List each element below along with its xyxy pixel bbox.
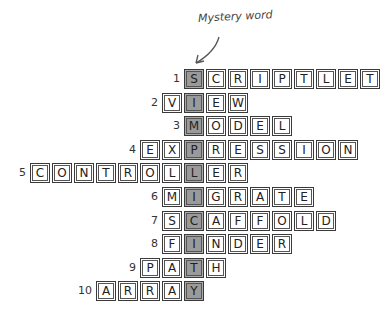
mystery-letter-cell[interactable]: C: [184, 211, 204, 231]
letter-cell[interactable]: A: [206, 211, 226, 231]
letter-cell[interactable]: E: [294, 187, 314, 207]
mystery-letter-cell[interactable]: L: [184, 163, 204, 183]
clue-number: 1: [164, 69, 180, 89]
letter-cell[interactable]: E: [206, 93, 226, 113]
letter-cell[interactable]: E: [206, 163, 226, 183]
letter-cell[interactable]: R: [228, 69, 248, 89]
letter-cell[interactable]: D: [228, 234, 248, 254]
letter-cell[interactable]: D: [228, 116, 248, 136]
mystery-letter-cell[interactable]: I: [184, 187, 204, 207]
mystery-letter-cell[interactable]: M: [184, 116, 204, 136]
letter-cell[interactable]: O: [316, 140, 336, 160]
letter-cell[interactable]: R: [118, 163, 138, 183]
letter-cell[interactable]: S: [250, 140, 270, 160]
letter-cell[interactable]: F: [162, 234, 182, 254]
letter-cell[interactable]: F: [250, 211, 270, 231]
letter-cell[interactable]: O: [272, 211, 292, 231]
letter-cell[interactable]: T: [294, 69, 314, 89]
letter-cell[interactable]: A: [162, 258, 182, 278]
letter-cell[interactable]: C: [206, 69, 226, 89]
letter-cell[interactable]: E: [338, 69, 358, 89]
mystery-letter-cell[interactable]: I: [184, 234, 204, 254]
letter-cell[interactable]: E: [250, 116, 270, 136]
letter-cell[interactable]: N: [338, 140, 358, 160]
mystery-letter-cell[interactable]: I: [184, 93, 204, 113]
letter-cell[interactable]: T: [96, 163, 116, 183]
clue-number: 5: [10, 163, 26, 183]
clue-number: 8: [142, 234, 158, 254]
letter-cell[interactable]: E: [250, 234, 270, 254]
letter-cell[interactable]: A: [162, 281, 182, 301]
letter-cell[interactable]: H: [206, 258, 226, 278]
letter-cell[interactable]: F: [228, 211, 248, 231]
letter-cell[interactable]: W: [228, 93, 248, 113]
letter-cell[interactable]: V: [162, 93, 182, 113]
letter-cell[interactable]: O: [140, 163, 160, 183]
letter-cell[interactable]: S: [162, 211, 182, 231]
letter-cell[interactable]: A: [96, 281, 116, 301]
letter-cell[interactable]: S: [272, 140, 292, 160]
letter-cell[interactable]: R: [140, 281, 160, 301]
clue-number: 10: [76, 281, 92, 301]
letter-cell[interactable]: L: [294, 211, 314, 231]
letter-cell[interactable]: P: [272, 69, 292, 89]
letter-cell[interactable]: N: [74, 163, 94, 183]
letter-cell[interactable]: T: [360, 69, 380, 89]
letter-cell[interactable]: I: [294, 140, 314, 160]
clue-number: 4: [120, 140, 136, 160]
mystery-letter-cell[interactable]: S: [184, 69, 204, 89]
letter-cell[interactable]: G: [206, 187, 226, 207]
letter-cell[interactable]: R: [206, 140, 226, 160]
clue-number: 3: [164, 116, 180, 136]
letter-cell[interactable]: R: [228, 187, 248, 207]
letter-cell[interactable]: R: [118, 281, 138, 301]
letter-cell[interactable]: I: [250, 69, 270, 89]
letter-cell[interactable]: D: [316, 211, 336, 231]
letter-cell[interactable]: E: [228, 140, 248, 160]
mystery-letter-cell[interactable]: Y: [184, 281, 204, 301]
letter-cell[interactable]: L: [162, 163, 182, 183]
letter-cell[interactable]: X: [162, 140, 182, 160]
letter-cell[interactable]: O: [52, 163, 72, 183]
mystery-letter-cell[interactable]: P: [184, 140, 204, 160]
letter-cell[interactable]: R: [228, 163, 248, 183]
clue-number: 7: [142, 211, 158, 231]
clue-number: 9: [120, 258, 136, 278]
letter-cell[interactable]: A: [250, 187, 270, 207]
letter-cell[interactable]: N: [206, 234, 226, 254]
letter-cell[interactable]: T: [272, 187, 292, 207]
letter-cell[interactable]: C: [30, 163, 50, 183]
clue-number: 2: [142, 93, 158, 113]
letter-cell[interactable]: R: [272, 234, 292, 254]
mystery-letter-cell[interactable]: T: [184, 258, 204, 278]
arrow-icon: [0, 0, 389, 80]
clue-number: 6: [142, 187, 158, 207]
letter-cell[interactable]: E: [140, 140, 160, 160]
letter-cell[interactable]: O: [206, 116, 226, 136]
letter-cell[interactable]: M: [162, 187, 182, 207]
letter-cell[interactable]: L: [316, 69, 336, 89]
letter-cell[interactable]: P: [140, 258, 160, 278]
letter-cell[interactable]: L: [272, 116, 292, 136]
